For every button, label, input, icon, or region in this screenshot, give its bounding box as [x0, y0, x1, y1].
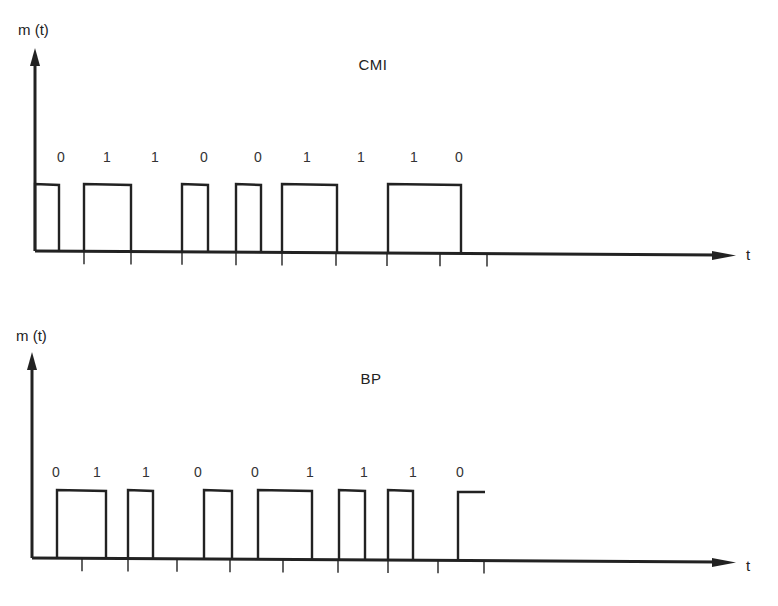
cmi-bit-label: 0 — [57, 149, 65, 165]
bp-y-axis-arrow-icon — [27, 352, 37, 370]
bp-x-axis-label: t — [746, 557, 750, 574]
cmi-bit-label: 0 — [254, 149, 262, 165]
cmi-bit-label: 1 — [357, 149, 365, 165]
cmi-bit-label: 1 — [303, 149, 311, 165]
bp-bit-label: 0 — [251, 464, 259, 480]
bp-partial-pulse — [458, 492, 485, 560]
cmi-pulse — [282, 184, 337, 253]
bp-x-axis-arrow-icon — [712, 558, 736, 567]
bp-pulse — [339, 490, 365, 560]
bp-pulse — [204, 490, 232, 559]
bp-bit-label: 0 — [52, 464, 60, 480]
waveform-canvas — [0, 0, 778, 606]
cmi-bit-label: 0 — [200, 149, 208, 165]
cmi-pulse — [388, 184, 461, 253]
cmi-bit-label: 0 — [455, 149, 463, 165]
bp-bit-label: 1 — [306, 464, 314, 480]
cmi-title: CMI — [359, 56, 388, 73]
bp-bit-label: 1 — [93, 464, 101, 480]
bp-pulse — [388, 490, 413, 560]
bp-bit-label: 0 — [194, 464, 202, 480]
cmi-x-axis — [35, 251, 718, 255]
cmi-y-axis-arrow-icon — [30, 48, 40, 66]
cmi-pulse — [236, 184, 261, 252]
bp-pulse — [128, 490, 153, 559]
bp-y-axis-label: m (t) — [16, 327, 47, 344]
cmi-pulse — [84, 184, 131, 252]
cmi-bit-label: 1 — [103, 149, 111, 165]
cmi-x-axis-label: t — [746, 246, 750, 263]
cmi-y-axis-label: m (t) — [18, 21, 49, 38]
bp-title: BP — [360, 370, 381, 387]
bp-bit-label: 1 — [409, 464, 417, 480]
bp-bit-label: 1 — [360, 464, 368, 480]
cmi-pulse — [182, 184, 208, 252]
bp-pulse — [57, 490, 106, 558]
cmi-bit-label: 1 — [410, 149, 418, 165]
cmi-pulse — [35, 184, 59, 251]
bp-x-axis — [32, 558, 718, 562]
bp-bit-label: 1 — [142, 464, 150, 480]
cmi-bit-label: 1 — [151, 149, 159, 165]
cmi-x-axis-arrow-icon — [712, 251, 736, 260]
bp-bit-label: 0 — [456, 464, 464, 480]
bp-pulse — [258, 490, 312, 560]
